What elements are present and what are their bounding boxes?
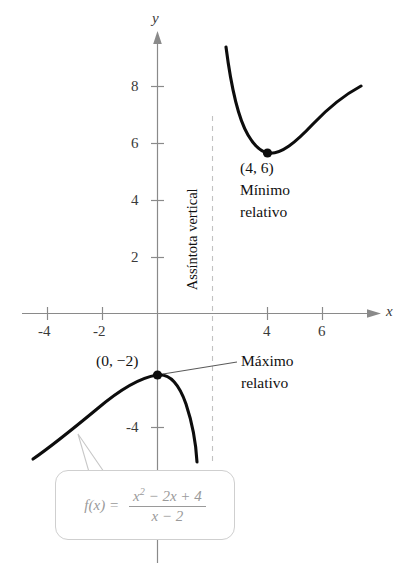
y-tick-label-2: 2 — [131, 249, 139, 266]
min-point-coordinate: (4, 6) — [240, 159, 274, 176]
y-axis-arrowhead — [153, 31, 162, 44]
max-relative-label-line2: relativo — [241, 374, 288, 391]
formula-callout-box: f(x) = x2 − 2x + 4 x − 2 — [55, 470, 235, 540]
y-tick-label-minus4: -4 — [126, 419, 139, 436]
max-leader-line — [163, 362, 237, 374]
x-tick-label-6: 6 — [318, 323, 326, 340]
formula-numerator-base: x — [133, 488, 140, 504]
formula-lhs: f(x) = — [84, 497, 119, 514]
min-point-dot — [263, 148, 272, 157]
figure-container: 8 6 4 2 -4 -4 -2 4 6 y x Assíntota verti… — [0, 0, 408, 563]
x-tick-label-minus4: -4 — [38, 323, 51, 340]
formula-callout-pointer — [78, 434, 104, 472]
max-point-dot — [153, 370, 162, 379]
x-axis-arrowhead — [367, 309, 381, 318]
x-tick-label-minus2: -2 — [93, 323, 106, 340]
y-tick-label-8: 8 — [131, 78, 139, 95]
min-relative-label-line1: Mínimo — [240, 181, 290, 198]
y-tick-label-6: 6 — [131, 135, 139, 152]
max-relative-label-line1: Máximo — [241, 352, 294, 369]
x-tick-label-4: 4 — [263, 323, 271, 340]
function-formula: f(x) = x2 − 2x + 4 x − 2 — [84, 486, 205, 525]
curve-left-branch — [33, 375, 197, 462]
x-axis-label: x — [386, 303, 393, 320]
formula-denominator: x − 2 — [147, 507, 187, 525]
formula-numerator-rest: − 2x + 4 — [149, 488, 202, 504]
min-relative-label-line2: relativo — [240, 203, 287, 220]
formula-numerator-exponent: 2 — [140, 486, 145, 497]
formula-numerator: x2 − 2x + 4 — [129, 486, 206, 507]
asymptote-label: Assíntota vertical — [184, 188, 200, 290]
formula-fraction: x2 − 2x + 4 x − 2 — [129, 486, 206, 525]
curve-right-branch — [226, 47, 361, 153]
y-axis-label: y — [152, 10, 159, 27]
max-point-coordinate: (0, −2) — [96, 352, 138, 369]
y-tick-label-4: 4 — [131, 192, 139, 209]
